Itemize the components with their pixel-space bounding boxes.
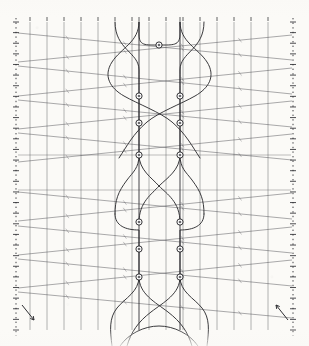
node-dot-n-l6 [138, 276, 141, 279]
node-dot-n-r1 [179, 95, 182, 98]
strand-n [120, 326, 198, 346]
node-dot-n-r3 [179, 154, 182, 157]
strand-m [127, 277, 180, 346]
node-dot-n-top [158, 44, 161, 47]
node-n-l6 [136, 274, 142, 280]
strand-l [139, 277, 192, 346]
node-dot-n-l4 [138, 221, 141, 224]
strand-h [115, 214, 139, 277]
node-dot-n-l2 [138, 122, 141, 125]
node-dot-n-l3 [138, 154, 141, 157]
frame-axes [16, 18, 293, 336]
braid-diagram-figure: braid-diagram Scanned technical line dia… [0, 0, 309, 346]
horizontal-rule-lines [18, 155, 291, 190]
node-n-l4 [136, 219, 142, 225]
strand-i [180, 214, 204, 277]
node-n-l1 [136, 93, 142, 99]
node-dot-n-r6 [179, 276, 182, 279]
node-n-r2 [177, 120, 183, 126]
node-n-l3 [136, 152, 142, 158]
corner-arrow-marks [22, 305, 288, 320]
node-n-r5 [177, 246, 183, 252]
node-dot-n-r5 [179, 248, 182, 251]
node-dot-n-r2 [179, 122, 182, 125]
axis-tick-marks [13, 22, 296, 330]
diagram-canvas [0, 0, 309, 346]
node-n-top [156, 42, 162, 48]
strand-e [119, 22, 211, 158]
node-n-l2 [136, 120, 142, 126]
strand-rails [139, 22, 180, 330]
strand-f [139, 155, 180, 222]
arrow-bottom-right [276, 305, 288, 320]
node-dot-n-l5 [138, 248, 141, 251]
node-dot-n-l1 [138, 95, 141, 98]
arrow-bottom-left [22, 305, 34, 320]
node-n-r4 [177, 219, 183, 225]
node-n-r3 [177, 152, 183, 158]
strand-g [139, 155, 180, 222]
crossing-nodes [136, 42, 183, 280]
strand-d [108, 22, 200, 158]
braid-strands [108, 22, 211, 346]
node-n-r1 [177, 93, 183, 99]
node-n-l5 [136, 246, 142, 252]
node-n-r6 [177, 274, 183, 280]
node-dot-n-r4 [179, 221, 182, 224]
strand-k [180, 277, 208, 346]
